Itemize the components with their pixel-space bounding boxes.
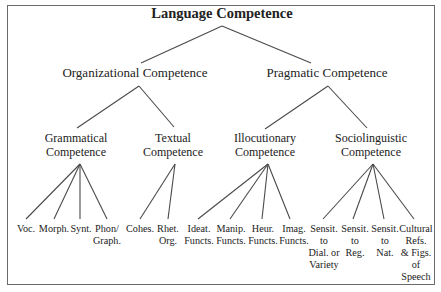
- leaf-line: Heur.: [248, 223, 278, 235]
- leaf-line: Functs.: [216, 235, 246, 247]
- leaf-ideational-functions: Ideat. Functs.: [184, 223, 214, 247]
- node-sociolinguistic-competence: Sociolinguistic Competence: [335, 131, 407, 159]
- leaf-line: Imag.: [279, 223, 309, 235]
- node-label-line: Sociolinguistic: [335, 131, 407, 145]
- node-label-line: Textual: [143, 131, 203, 145]
- leaf-line: Sensit.: [308, 223, 339, 235]
- node-label-line: Competence: [335, 145, 407, 159]
- node-grammatical-competence: Grammatical Competence: [45, 131, 108, 159]
- node-label-line: Competence: [143, 145, 203, 159]
- leaf-line: Sensit.: [371, 223, 398, 235]
- node-textual-competence: Textual Competence: [143, 131, 203, 159]
- leaf-rhetorical-organization: Rhet. Org.: [157, 223, 179, 247]
- leaf-phonology-graphology: Phon/ Graph.: [93, 223, 121, 247]
- node-language-competence: Language Competence: [151, 5, 292, 22]
- leaf-sensitivity-register: Sensit. to Reg.: [341, 223, 368, 259]
- leaf-line: Sensit.: [341, 223, 368, 235]
- leaf-heuristic-functions: Heur. Functs.: [248, 223, 278, 247]
- leaf-line: Voc.: [17, 223, 35, 235]
- leaf-line: to: [308, 235, 339, 247]
- node-label-line: Illocutionary: [234, 131, 296, 145]
- leaf-line: Dial. or: [308, 247, 339, 259]
- leaf-morphology: Morph.: [39, 223, 69, 235]
- node-organizational-competence: Organizational Competence: [62, 66, 207, 81]
- leaf-manipulative-functions: Manip. Functs.: [216, 223, 246, 247]
- leaf-sensitivity-dialect-variety: Sensit. to Dial. or Variety: [308, 223, 339, 271]
- leaf-line: Morph.: [39, 223, 69, 235]
- leaf-line: Functs.: [248, 235, 278, 247]
- node-illocutionary-competence: Illocutionary Competence: [234, 131, 296, 159]
- leaf-cultural-references-figures-of-speech: Cultural Refs. & Figs. of Speech: [399, 223, 432, 283]
- leaf-line: Ideat.: [184, 223, 214, 235]
- node-label-line: Grammatical: [45, 131, 108, 145]
- leaf-line: Variety: [308, 259, 339, 271]
- leaf-line: Speech: [399, 271, 432, 283]
- leaf-line: Synt.: [70, 223, 91, 235]
- leaf-syntax: Synt.: [70, 223, 91, 235]
- leaf-cohesion: Cohes.: [126, 223, 154, 235]
- leaf-line: Reg.: [341, 247, 368, 259]
- leaf-line: to: [371, 235, 398, 247]
- leaf-line: Org.: [157, 235, 179, 247]
- leaf-imaginative-functions: Imag. Functs.: [279, 223, 309, 247]
- leaf-line: Rhet.: [157, 223, 179, 235]
- leaf-line: of: [399, 259, 432, 271]
- leaf-line: Functs.: [184, 235, 214, 247]
- leaf-sensitivity-naturalness: Sensit. to Nat.: [371, 223, 398, 259]
- leaf-line: Cohes.: [126, 223, 154, 235]
- leaf-line: Manip.: [216, 223, 246, 235]
- leaf-line: Refs.: [399, 235, 432, 247]
- leaf-line: Nat.: [371, 247, 398, 259]
- node-label-line: Competence: [45, 145, 108, 159]
- node-label-line: Competence: [234, 145, 296, 159]
- leaf-vocabulary: Voc.: [17, 223, 35, 235]
- node-pragmatic-competence: Pragmatic Competence: [267, 66, 388, 81]
- leaf-line: Graph.: [93, 235, 121, 247]
- leaf-line: Phon/: [93, 223, 121, 235]
- leaf-line: & Figs.: [399, 247, 432, 259]
- leaf-line: to: [341, 235, 368, 247]
- leaf-line: Cultural: [399, 223, 432, 235]
- leaf-line: Functs.: [279, 235, 309, 247]
